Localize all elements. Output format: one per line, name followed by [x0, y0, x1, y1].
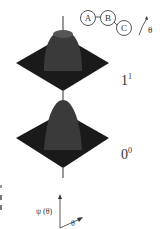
angle-label: θ — [148, 25, 152, 35]
cropped-text-fragment — [0, 185, 3, 215]
theta-axis-label: θ — [71, 219, 75, 228]
ground-state-surface — [14, 98, 114, 178]
atom-c: C — [116, 20, 132, 36]
excited-state-surface — [14, 16, 114, 100]
ground-state-label: 00 — [121, 146, 132, 163]
axes-arrows — [55, 193, 85, 229]
psi-axis-label: ψ (θ) — [36, 207, 52, 216]
excited-state-label: 11 — [121, 72, 132, 89]
